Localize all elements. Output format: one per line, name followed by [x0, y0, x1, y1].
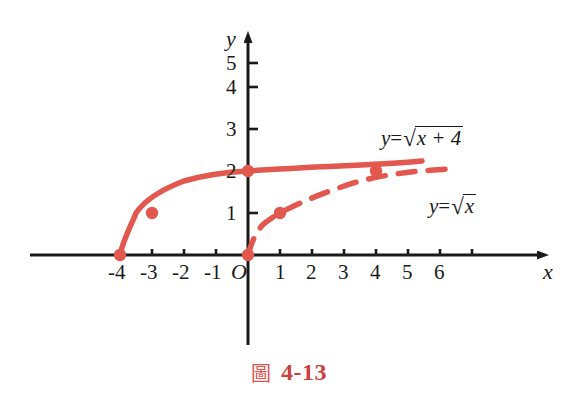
x-tick-label-neg3: -3	[140, 262, 158, 283]
y-tick-label-2: 2	[226, 161, 237, 182]
figure-caption: 圖4-13	[0, 358, 578, 387]
point-1-1	[274, 207, 286, 219]
origin-label: O	[231, 261, 247, 283]
caption-symbol: 圖	[251, 362, 271, 386]
curve2-radical: √x	[450, 194, 476, 217]
curve2-equals: =	[438, 194, 450, 218]
x-tick-label-6: 6	[434, 262, 445, 283]
radical-sign-icon: √	[451, 195, 464, 218]
plot-canvas	[0, 0, 578, 418]
x-tick-label-5: 5	[402, 262, 413, 283]
point-0-2	[242, 165, 254, 177]
radical-sign-icon: √	[403, 127, 416, 150]
curve2-y-symbol: y	[429, 194, 438, 218]
x-tick-label-2: 2	[306, 262, 317, 283]
point-neg3-1	[146, 207, 158, 219]
marked-points-dashed	[242, 165, 382, 261]
x-axis-label: x	[543, 261, 553, 283]
x-tick-label-1: 1	[275, 262, 286, 283]
y-tick-label-5: 5	[226, 53, 237, 74]
point-4-2	[370, 165, 382, 177]
curve2-radicand: x	[463, 194, 476, 217]
x-tick-label-neg4: -4	[108, 262, 126, 283]
y-axis-label: y	[226, 28, 236, 50]
curve1-radicand: x + 4	[415, 126, 464, 149]
curve1-y-symbol: y	[381, 126, 390, 150]
x-tick-label-4: 4	[370, 262, 381, 283]
figure-container: y x O -4 -3 -2 -1 1 2 3 4 5 6 1 2 3 4 5 …	[0, 0, 578, 418]
x-tick-label-neg2: -2	[172, 262, 190, 283]
curve-label-sqrt-x: y=√x	[429, 194, 476, 217]
curve-label-sqrt-x-plus-4: y=√x + 4	[381, 126, 463, 149]
caption-number: 4-13	[281, 359, 327, 385]
curve1-equals: =	[390, 126, 402, 150]
y-tick-label-1: 1	[226, 203, 237, 224]
y-tick-label-4: 4	[226, 77, 237, 98]
y-tick-label-3: 3	[226, 119, 237, 140]
x-tick-label-3: 3	[338, 262, 349, 283]
curve1-radical: √x + 4	[402, 126, 463, 149]
x-tick-label-neg1: -1	[204, 262, 222, 283]
